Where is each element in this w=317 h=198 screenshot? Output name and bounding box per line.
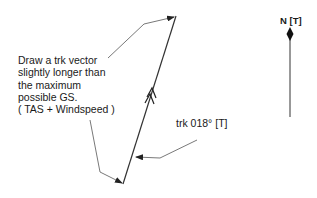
north-diamond-icon: [287, 27, 294, 41]
leader-to-vector-bottom: [90, 120, 122, 183]
note-line: slightly longer than: [18, 66, 115, 78]
note-line: Draw a trk vector: [18, 54, 115, 66]
track-vector-line: [123, 16, 176, 184]
double-chevron-icon: [145, 88, 156, 104]
leader-track-label: [136, 140, 197, 158]
note-line: possible GS.: [18, 91, 115, 103]
note-line: the maximum: [18, 79, 115, 91]
north-label: N [T]: [280, 15, 302, 27]
instruction-note: Draw a trk vector slightly longer than t…: [18, 54, 115, 115]
track-label: trk 018° [T]: [176, 117, 227, 129]
note-line: ( TAS + Windspeed ): [18, 103, 115, 115]
